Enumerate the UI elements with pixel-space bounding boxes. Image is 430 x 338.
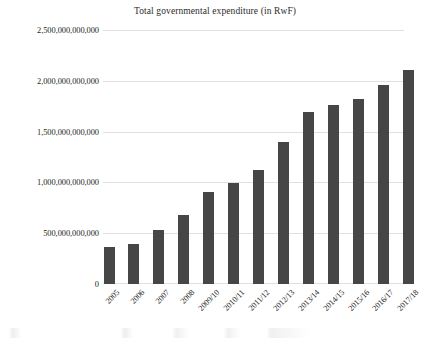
x-axis-tick-label-2015-16: 2015/16 — [346, 288, 371, 313]
plot-area — [103, 30, 404, 284]
bar-2013-14 — [303, 112, 314, 284]
y-axis-tick-label-1: 500,000,000,000 — [3, 229, 99, 238]
x-axis-tick-label-2016-17: 2016/17 — [371, 288, 396, 313]
y-axis-tick-label-5: 2,500,000,000,000 — [3, 26, 99, 35]
bar-2007 — [153, 230, 164, 284]
bar-2008 — [178, 215, 189, 284]
bar-2010-11 — [228, 183, 239, 284]
y-axis-tick-label-0: 0 — [3, 280, 99, 289]
chart-figure: Total governmental expenditure (in RwF) … — [0, 0, 430, 338]
bar-2006 — [128, 244, 139, 284]
bar-2005 — [104, 247, 115, 284]
x-axis-tick-label-2014-15: 2014/15 — [321, 288, 346, 313]
x-axis-tick-label-2007: 2007 — [154, 288, 172, 306]
gridline-2500000000000 — [103, 30, 404, 31]
x-axis-tick-label-2013-14: 2013/14 — [296, 288, 321, 313]
x-axis-tick-label-2008: 2008 — [179, 288, 197, 306]
gridline-2000000000000 — [103, 81, 404, 82]
y-axis-tick-label-3: 1,500,000,000,000 — [3, 127, 99, 136]
x-axis-tick-label-2009-10: 2009/10 — [196, 288, 221, 313]
x-axis-tick-label-2005: 2005 — [104, 288, 122, 306]
chart-title: Total governmental expenditure (in RwF) — [0, 6, 430, 16]
page-footer-artifact — [0, 328, 430, 338]
bar-2017-18 — [403, 70, 414, 284]
bar-2015-16 — [353, 99, 364, 284]
x-axis-tick-label-2010-11: 2010/11 — [221, 288, 246, 313]
x-axis-tick-label-2006: 2006 — [129, 288, 147, 306]
bar-2016-17 — [378, 85, 389, 284]
x-axis-tick-label-2012-13: 2012/13 — [271, 288, 296, 313]
y-axis-tick-labels: 0 500,000,000,000 1,000,000,000,000 1,50… — [0, 30, 99, 284]
bar-2011-12 — [253, 170, 264, 284]
bar-2012-13 — [278, 142, 289, 284]
x-axis-tick-label-2017-18: 2017/18 — [396, 288, 421, 313]
x-axis-tick-label-2011-12: 2011/12 — [246, 288, 271, 313]
bar-2009-10 — [203, 192, 214, 284]
y-axis-tick-label-4: 2,000,000,000,000 — [3, 76, 99, 85]
bar-2014-15 — [328, 105, 339, 284]
y-axis-tick-label-2: 1,000,000,000,000 — [3, 178, 99, 187]
